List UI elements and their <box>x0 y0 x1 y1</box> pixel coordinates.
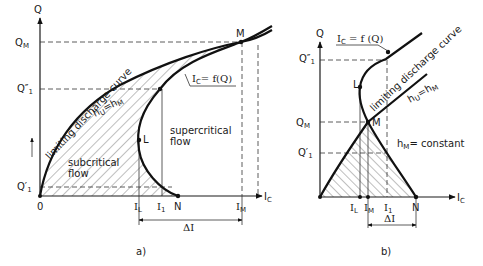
tick-qm-a: QM <box>15 37 29 50</box>
point-l-label-a: L <box>143 134 149 145</box>
q-axis-label-b: Q <box>316 28 324 39</box>
panel-b: Q IC Q″1 QM Q′1 IL IM I1 N M L IC = f (Q… <box>296 23 465 257</box>
ic-function-label-b: IC = f (Q) <box>337 33 384 46</box>
supercritical-label-1: supercritical <box>170 125 231 136</box>
q-axis-label-a: Q <box>34 4 42 15</box>
point-il-b <box>358 195 362 199</box>
subcritical-label-1: subcritical <box>68 157 119 168</box>
tick-q1p-b: Q′1 <box>298 147 313 160</box>
caption-b: b) <box>381 246 391 257</box>
point-m-b <box>366 120 370 124</box>
caption-a: a) <box>136 246 146 257</box>
origin-label: 0 <box>37 201 43 212</box>
tick-n-a: N <box>174 201 181 212</box>
ic-axis-label-b: IC <box>457 192 465 205</box>
point-im-b <box>366 195 370 199</box>
tick-im-b: IM <box>364 202 374 215</box>
tick-qm-b: QM <box>296 117 310 130</box>
tick-im-a: IM <box>236 201 246 214</box>
point-n-b <box>414 195 418 199</box>
subcritical-label-2: flow <box>68 168 89 179</box>
point-m-label-a: M <box>236 28 245 39</box>
delta-i-label-b: ΔI <box>384 213 395 224</box>
ic-function-label-a: IC= f(Q) <box>192 73 232 86</box>
point-m-label-b: M <box>372 117 381 128</box>
discharge-diagram: Q IC 0 QM Q″1 Q′1 IL I1 N IM M L IC= f(Q… <box>0 0 483 266</box>
ic-axis-label-a: IC <box>264 191 272 204</box>
point-n-a <box>176 194 180 198</box>
point-q1pp-a <box>158 87 162 91</box>
tick-i1-a: I1 <box>157 201 165 214</box>
tick-il-a: IL <box>134 201 142 214</box>
tick-q1pp-b: Q″1 <box>299 53 315 66</box>
hm-constant-label: hM= constant <box>397 138 464 151</box>
tick-n-b: N <box>412 202 419 213</box>
delta-i-label-a: ΔI <box>183 222 194 233</box>
panel-a: Q IC 0 QM Q″1 Q′1 IL I1 N IM M L IC= f(Q… <box>15 4 272 257</box>
point-origin-a <box>38 194 42 198</box>
tick-q1p-a: Q′1 <box>17 181 32 194</box>
point-origin-b <box>318 195 322 199</box>
point-m-a <box>239 40 243 44</box>
tick-q1pp-a: Q″1 <box>17 83 33 96</box>
supercritical-label-2: flow <box>170 136 191 147</box>
hu-hm-label-b: hU=hM <box>406 79 440 106</box>
tick-il-b: IL <box>350 202 358 215</box>
point-l-a <box>137 138 141 142</box>
point-l-label-b: L <box>353 79 359 90</box>
